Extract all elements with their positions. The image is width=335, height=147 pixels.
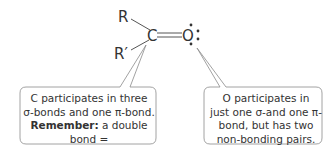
callout-left-line: σ-bonds and one π-bond. xyxy=(20,106,158,120)
lone-pair-dot xyxy=(197,30,200,33)
callout-left-line: Remember: a double bond = xyxy=(20,119,158,146)
atom-carbon: C xyxy=(147,27,157,45)
callout-left-line: C participates in three xyxy=(20,92,158,106)
carbonyl-diagram: R R′ C O C participates in three σ-bonds… xyxy=(0,0,335,147)
callout-left-line: one σ-and one π-bond. xyxy=(20,146,158,147)
atom-oxygen: O xyxy=(182,27,194,45)
callout-left-text: C participates in three σ-bonds and one … xyxy=(20,92,158,147)
lone-pair-dot xyxy=(190,24,193,27)
callout-right-text: O participates in just one σ-and one π- … xyxy=(205,92,327,146)
callout-right-line: non-bonding pairs. xyxy=(205,133,327,147)
remember-label: Remember: xyxy=(30,119,98,131)
atom-r-prime: R′ xyxy=(114,45,128,63)
callout-right-line: O participates in xyxy=(205,92,327,106)
callout-right-line: just one σ-and one π- xyxy=(205,106,327,120)
atom-r: R xyxy=(118,8,128,26)
callout-right-line: bond, but has two xyxy=(205,119,327,133)
lone-pair-dot xyxy=(197,38,200,41)
